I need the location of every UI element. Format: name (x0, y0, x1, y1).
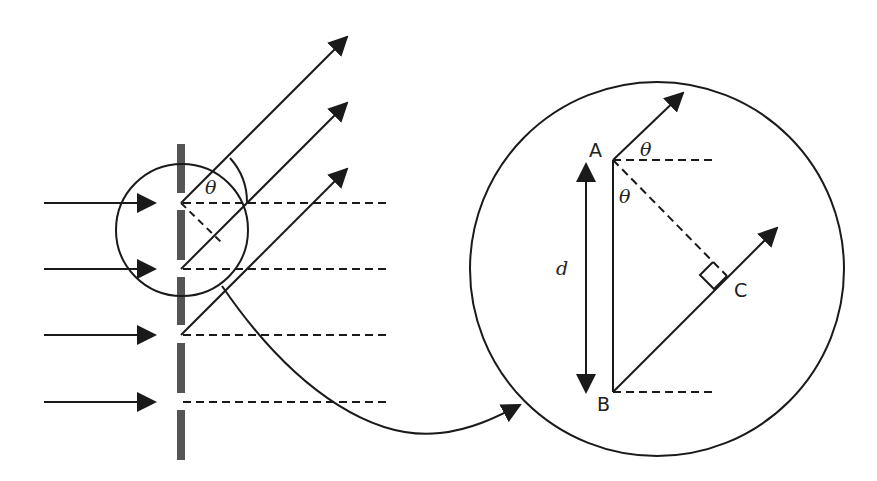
zoom-geometry (613, 93, 777, 392)
point-c-label: C (734, 279, 747, 301)
magnify-connector-arrow (222, 286, 520, 434)
path-difference-perpendicular (181, 203, 222, 243)
angle-label-left: θ (205, 176, 217, 198)
incident-rays (44, 203, 155, 402)
spacing-label: d (556, 257, 568, 279)
angle-label-inner: θ (619, 185, 631, 207)
point-a-label: A (589, 139, 602, 161)
angle-label-top: θ (640, 138, 652, 160)
point-b-label: B (597, 393, 610, 415)
diffraction-diagram: θ A B C d θ θ (0, 0, 877, 481)
zoom-circle (470, 82, 844, 456)
grating (177, 144, 185, 460)
